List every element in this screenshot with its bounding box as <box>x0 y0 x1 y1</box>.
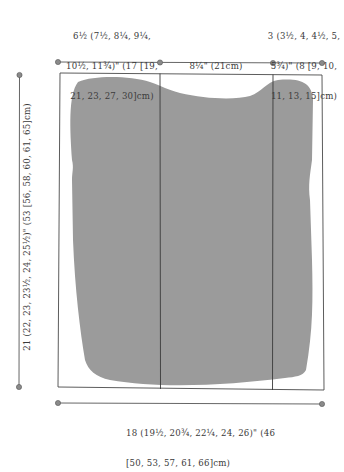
garment-shape <box>70 77 313 385</box>
label-line: 18 (19½, 20¾, 22¼, 24, 26)" (46 <box>126 426 276 441</box>
dimension-dot <box>55 400 60 405</box>
measurement-top-right-width: 3 (3½, 4, 4½, 5, 5¾)" (8 [9, 10, 11, 13,… <box>262 14 344 119</box>
label-line: 6½ (7½, 8¼, 9¼, <box>62 29 162 44</box>
measurement-top-middle-width: 8¼" (21cm) <box>176 44 256 89</box>
panel-divider-right <box>273 75 274 391</box>
measurement-top-left-width: 6½ (7½, 8¼, 9¼, 10½, 11¾)" (17 [19, 21, … <box>62 14 162 119</box>
bottom-dimension-line <box>55 400 324 406</box>
label-line: 21, 23, 27, 30]cm) <box>62 89 162 104</box>
label-line: 5¾)" (8 [9, 10, <box>262 59 344 74</box>
dimension-dot <box>319 401 324 406</box>
dimension-dot <box>55 59 60 64</box>
measurement-bottom-width: 18 (19½, 20¾, 22¼, 24, 26)" (46 [50, 53,… <box>126 411 276 472</box>
dimension-dot <box>16 384 21 389</box>
label-line: 11, 13, 15]cm) <box>262 89 344 104</box>
label-line: 8¼" (21cm) <box>176 59 256 74</box>
measurement-left-height: 21 (22, 23, 23½, 24, 25½)" (53 [56, 58, … <box>21 77 33 377</box>
label-line: [50, 53, 57, 61, 66]cm) <box>126 456 276 471</box>
label-line: 10½, 11¾)" (17 [19, <box>62 59 162 74</box>
panel-divider-left <box>160 74 161 390</box>
label-line: 3 (3½, 4, 4½, 5, <box>262 29 344 44</box>
